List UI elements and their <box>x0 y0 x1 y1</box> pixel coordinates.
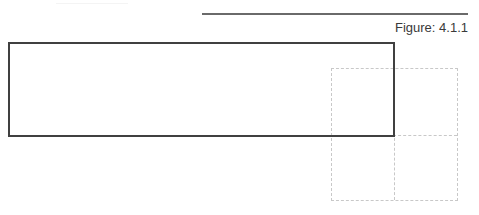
header-rule <box>202 13 468 15</box>
faint-top-line <box>56 3 128 4</box>
solid-rectangle-box <box>8 42 395 137</box>
figure-label: Figure: 4.1.1 <box>395 20 468 35</box>
